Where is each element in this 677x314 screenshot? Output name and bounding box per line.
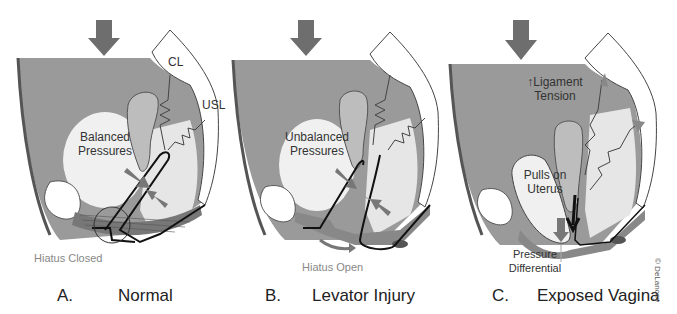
panel-normal: CL USL Balanced Pressures Hiatus Closed … <box>0 0 225 314</box>
panel-c-letter: C. <box>492 286 509 306</box>
pulls-on-uterus-label: Pulls on Uterus <box>515 168 575 196</box>
cardinal-ligament-label: CL <box>168 55 183 69</box>
ligament-tension-label: ↑Ligament Tension <box>520 75 590 103</box>
panel-exposed-vagina: ↑Ligament Tension Pulls on Uterus Pressu… <box>440 0 677 314</box>
balanced-pressures-label: Balanced Pressures <box>70 130 140 158</box>
panel-b-letter: B. <box>265 286 281 306</box>
hiatus-closed-label: Hiatus Closed <box>34 251 102 265</box>
hiatus-open-label: Hiatus Open <box>302 260 363 274</box>
copyright-credit: © DeLancey <box>653 258 662 302</box>
unbalanced-pressures-label: Unbalanced Pressures <box>277 130 357 158</box>
panel-c-title: Exposed Vagina <box>537 286 660 306</box>
panel-a-letter: A. <box>57 286 73 306</box>
panel-a-title: Normal <box>118 286 173 306</box>
uterosacral-ligament-label: USL <box>202 98 225 112</box>
panel-levator-injury: Unbalanced Pressures Hiatus Open B. Leva… <box>225 0 450 314</box>
pressure-differential-label: Pressure Differential <box>500 247 570 275</box>
panel-b-title: Levator Injury <box>312 286 415 306</box>
